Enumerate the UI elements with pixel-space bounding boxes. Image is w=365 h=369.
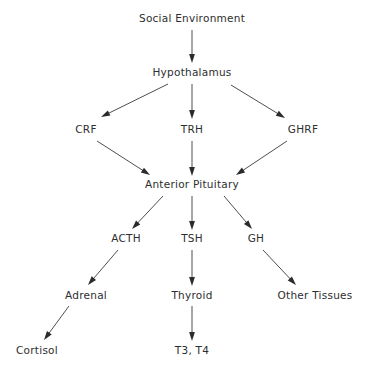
- arrowhead-icon: [189, 277, 195, 286]
- edge-arrow: [189, 84, 195, 119]
- edge-line: [107, 84, 168, 114]
- edge-arrow: [101, 84, 168, 117]
- node-hypothalamus: Hypothalamus: [152, 66, 231, 78]
- node-social_environment: Social Environment: [139, 12, 245, 24]
- node-cortisol: Cortisol: [16, 344, 58, 356]
- flowchart-svg: Social EnvironmentHypothalamusCRFTRHGHRF…: [0, 0, 365, 369]
- edge-line: [224, 196, 248, 224]
- edge-arrow: [189, 196, 195, 230]
- edge-line: [48, 306, 69, 335]
- edge-arrow: [88, 250, 118, 285]
- edge-arrow: [263, 250, 296, 285]
- node-trh: TRH: [180, 123, 203, 135]
- arrowhead-icon: [276, 111, 285, 118]
- node-other_tissues: Other Tissues: [278, 289, 353, 301]
- edge-arrow: [231, 85, 285, 118]
- edge-line: [92, 250, 118, 280]
- node-acth: ACTH: [111, 232, 141, 244]
- node-tsh: TSH: [180, 232, 203, 244]
- arrowhead-icon: [236, 168, 245, 175]
- edge-arrow: [189, 141, 195, 176]
- edge-arrow: [189, 250, 195, 286]
- edge-line: [263, 250, 292, 280]
- edge-arrow: [44, 306, 69, 340]
- node-ghrf: GHRF: [288, 123, 318, 135]
- arrowhead-icon: [44, 331, 52, 340]
- arrowhead-icon: [189, 110, 195, 119]
- node-thyroid: Thyroid: [170, 289, 212, 301]
- edge-arrow: [97, 141, 150, 175]
- node-t3_t4: T3, T4: [174, 344, 209, 356]
- edge-line: [136, 196, 163, 224]
- edge-line: [97, 141, 145, 171]
- nodes-layer: Social EnvironmentHypothalamusCRFTRHGHRF…: [16, 12, 352, 356]
- edge-line: [231, 85, 279, 115]
- arrowhead-icon: [189, 54, 195, 63]
- edge-arrow: [224, 196, 252, 229]
- diagram-canvas: Social EnvironmentHypothalamusCRFTRHGHRF…: [0, 0, 365, 369]
- node-gh: GH: [248, 232, 265, 244]
- arrowhead-icon: [189, 167, 195, 176]
- edge-arrow: [189, 306, 195, 341]
- arrowhead-icon: [141, 168, 150, 175]
- arrowhead-icon: [101, 110, 110, 117]
- arrowhead-icon: [189, 221, 195, 230]
- edge-arrow: [132, 196, 163, 229]
- edge-line: [241, 141, 287, 171]
- edge-arrow: [236, 141, 287, 175]
- node-adrenal: Adrenal: [65, 289, 107, 301]
- arrowhead-icon: [189, 332, 195, 341]
- node-crf: CRF: [75, 123, 96, 135]
- node-anterior_pituitary: Anterior Pituitary: [145, 178, 239, 190]
- edge-arrow: [189, 30, 195, 63]
